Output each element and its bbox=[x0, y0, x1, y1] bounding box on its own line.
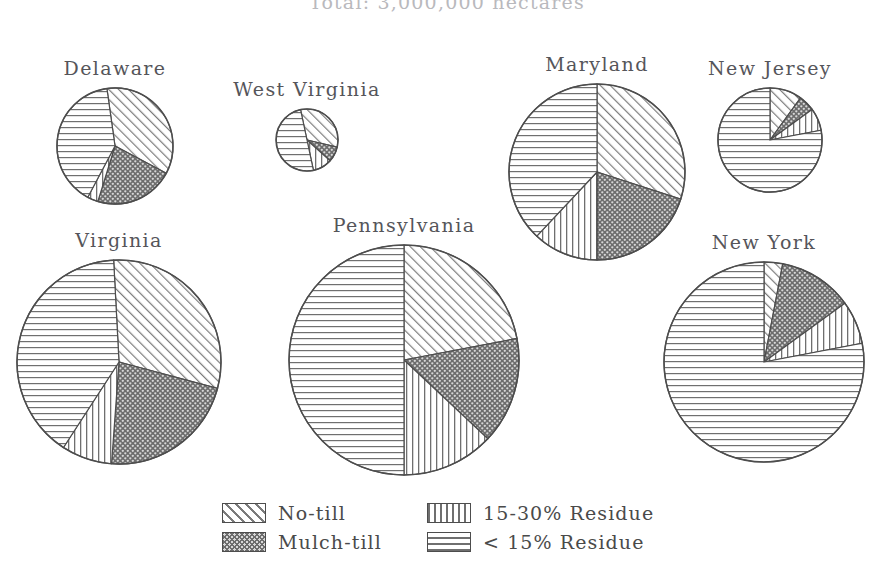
pie-label-virginia: Virginia bbox=[0, 229, 249, 251]
pie-west-virginia: West Virginia bbox=[273, 106, 341, 174]
legend-item-residue-under-15: < 15% Residue bbox=[427, 529, 645, 555]
legend-swatch-residue-under-15 bbox=[427, 532, 471, 552]
pie-svg-pennsylvania bbox=[286, 242, 522, 478]
pie-virginia: Virginia bbox=[14, 257, 224, 467]
pie-label-delaware: Delaware bbox=[0, 57, 245, 79]
pie-chart-figure: Total: 3,000,000 hectares DelawareWest V… bbox=[0, 0, 894, 572]
legend-label-residue-15-30: 15-30% Residue bbox=[483, 502, 654, 524]
pie-new-jersey: New Jersey bbox=[715, 85, 825, 195]
legend-label-no-till: No-till bbox=[278, 502, 346, 524]
pie-svg-new-jersey bbox=[715, 85, 825, 195]
pie-pennsylvania: Pennsylvania bbox=[286, 242, 522, 478]
pie-svg-delaware bbox=[54, 85, 176, 207]
pie-label-new-york: New York bbox=[634, 231, 894, 253]
legend-item-no-till: No-till bbox=[222, 500, 346, 526]
pie-delaware: Delaware bbox=[54, 85, 176, 207]
legend-swatch-mulch-till bbox=[222, 532, 266, 552]
pie-slice-15-residue bbox=[289, 245, 404, 475]
chart-legend: No-till Mulch-till 15-30% Residue < 15% … bbox=[222, 500, 672, 558]
pie-svg-virginia bbox=[14, 257, 224, 467]
legend-label-mulch-till: Mulch-till bbox=[278, 531, 382, 553]
legend-item-residue-15-30: 15-30% Residue bbox=[427, 500, 654, 526]
pie-label-new-jersey: New Jersey bbox=[640, 57, 894, 79]
legend-item-mulch-till: Mulch-till bbox=[222, 529, 382, 555]
legend-swatch-residue-15-30 bbox=[427, 503, 471, 523]
legend-label-residue-under-15: < 15% Residue bbox=[483, 531, 645, 553]
pie-label-pennsylvania: Pennsylvania bbox=[274, 214, 534, 236]
chart-title: Total: 3,000,000 hectares bbox=[0, 0, 894, 13]
legend-swatch-no-till bbox=[222, 503, 266, 523]
pie-svg-new-york bbox=[661, 259, 867, 465]
pie-label-west-virginia: West Virginia bbox=[177, 78, 437, 100]
pie-svg-west-virginia bbox=[273, 106, 341, 174]
pie-new-york: New York bbox=[661, 259, 867, 465]
